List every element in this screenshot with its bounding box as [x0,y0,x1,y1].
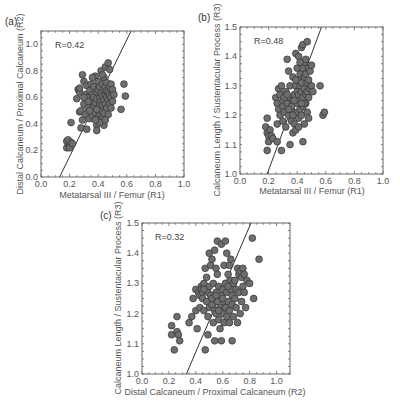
data-point [278,147,285,154]
data-point [211,337,218,344]
data-point [106,66,113,73]
x-tick-label: 0.4 [92,179,105,189]
data-point [305,94,312,101]
data-point [176,337,183,344]
y-axis-label-c: Calcaneum Length / Sustentacular Process… [113,201,123,394]
x-axis-label-a: Metatarsal III / Femur (R1) [59,190,165,200]
data-point [219,295,226,302]
x-tick-label: 0.8 [149,179,162,189]
data-point [217,325,224,332]
y-tick-label: 0.6 [25,92,38,102]
y-tick-label: 1.0 [224,169,237,179]
data-point [225,283,232,290]
y-tick-label: 1.4 [224,51,237,61]
data-point [284,56,291,63]
data-point [89,74,96,81]
data-point [93,106,100,113]
data-point [93,127,100,134]
panel-label-b: (b) [198,12,210,23]
data-point [304,38,311,45]
data-point [291,97,298,104]
data-point [205,331,212,338]
y-tick-label: 0.0 [25,172,38,182]
data-point [321,109,328,116]
data-point [226,262,233,269]
x-tick-label: 0.8 [243,376,256,386]
data-point [227,256,234,263]
y-tick-label: 0.8 [25,66,38,76]
figure-canvas: (a) R=0.42 Metatarsal III / Femur (R1) D… [0,0,400,412]
data-point [285,68,292,75]
data-point [168,322,175,329]
data-point [233,304,240,311]
x-tick-label: 0.8 [348,176,361,186]
y-tick-label: 1.4 [126,248,139,258]
data-point [285,106,292,113]
data-point [79,71,86,78]
data-point [230,313,237,320]
y-tick-label: 1.1 [224,140,237,150]
data-point [241,289,248,296]
data-point [68,119,75,126]
y-tick-label: 0.2 [25,145,38,155]
y-tick-label: 1.5 [224,22,237,32]
x-tick-label: 0.4 [291,176,304,186]
data-point [108,105,115,112]
data-point [310,88,317,95]
data-point [295,124,302,131]
data-point [105,59,112,66]
data-point [92,117,99,124]
data-point [121,81,128,88]
data-point [190,295,197,302]
x-tick-label: 0.6 [216,376,229,386]
data-point [76,85,83,92]
data-point [223,250,230,257]
data-point [99,71,106,78]
y-tick-label: 1.2 [126,309,139,319]
data-point [240,265,247,272]
y-tick-label: 1.1 [126,339,139,349]
data-point [171,346,178,353]
x-tick-label: 0.4 [190,376,203,386]
data-point [231,295,238,302]
data-point [203,274,210,281]
data-point [300,138,307,145]
data-point [249,235,256,242]
data-point [234,319,241,326]
data-point [200,286,207,293]
data-point [214,271,221,278]
r-annotation-b: R=0.48 [254,36,283,46]
data-point [298,100,305,107]
y-tick-label: 0.4 [25,119,38,129]
data-point [274,138,281,145]
data-point [242,304,249,311]
r-annotation-c: R=0.32 [155,232,184,242]
data-point [237,310,244,317]
data-point [86,107,93,114]
data-point [211,247,218,254]
data-point [215,307,222,314]
y-tick-label: 1.0 [25,39,38,49]
x-tick-label: 0.6 [121,179,134,189]
data-point [188,313,195,320]
data-point [308,62,315,69]
x-tick-label: 0.2 [163,376,176,386]
x-tick-label: 0.2 [63,179,76,189]
data-point [297,59,304,66]
scatter-panel-b: (b) R=0.48 Metatarsal III / Femur (R1) C… [198,3,389,196]
data-point [122,93,129,100]
x-tick-label: 1.0 [178,179,191,189]
data-point [175,331,182,338]
x-tick-label: 1.0 [377,176,390,186]
data-point [292,77,299,84]
y-tick-label: 1.0 [126,369,139,379]
plot-frame [240,27,383,174]
y-tick-label: 1.2 [224,110,237,120]
data-point [317,82,324,89]
scatter-panel-a: (a) R=0.42 Metatarsal III / Femur (R1) D… [5,13,190,200]
data-point [111,91,118,98]
data-point [287,141,294,148]
data-point [118,106,125,113]
x-tick-label: 0.2 [262,176,275,186]
data-point [218,337,225,344]
